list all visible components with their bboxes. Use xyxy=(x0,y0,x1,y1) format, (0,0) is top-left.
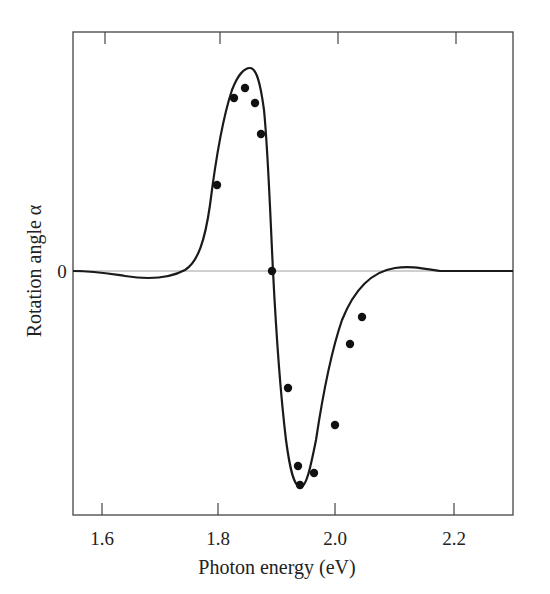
data-point xyxy=(346,340,354,348)
data-point xyxy=(331,421,339,429)
x-axis-label: Photon energy (eV) xyxy=(198,556,355,579)
data-point xyxy=(251,99,259,107)
y-tick-label: 0 xyxy=(57,261,67,282)
plot-frame xyxy=(73,32,513,515)
theory-curve xyxy=(73,68,513,487)
data-points xyxy=(213,84,366,489)
data-point xyxy=(296,481,304,489)
data-point xyxy=(268,267,276,275)
chart: 1.6 1.8 2.0 2.2 0 Photon energy (eV) Rot… xyxy=(0,0,550,594)
x-tick-label: 2.0 xyxy=(323,528,347,549)
data-point xyxy=(294,462,302,470)
x-ticks-top xyxy=(105,32,456,44)
data-point xyxy=(213,181,221,189)
x-tick-label: 1.6 xyxy=(90,528,114,549)
y-axis-label: Rotation angle α xyxy=(23,204,46,337)
x-tick-label: 1.8 xyxy=(206,528,230,549)
data-point xyxy=(230,94,238,102)
x-tick-label: 2.2 xyxy=(442,528,466,549)
data-point xyxy=(257,130,265,138)
data-point xyxy=(358,313,366,321)
x-ticks-bottom xyxy=(102,503,454,515)
data-point xyxy=(241,84,249,92)
data-point xyxy=(310,469,318,477)
data-point xyxy=(284,384,292,392)
